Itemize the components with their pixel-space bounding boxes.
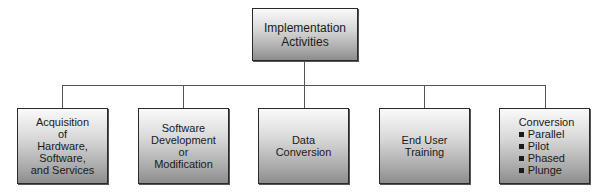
label-line: or [179, 146, 189, 158]
bullet-label: Phased [528, 152, 565, 164]
child-connector-1 [62, 85, 63, 108]
node-conversion: Conversion Parallel Pilot Phased Plunge [499, 108, 590, 184]
bullet-label: Parallel [528, 128, 565, 140]
label-line: Conversion [276, 146, 332, 158]
label-line: Software [162, 122, 205, 134]
root-node-implementation-activities: Implementation Activities [252, 8, 358, 61]
label-line: Modification [154, 158, 213, 170]
child-connector-5 [545, 85, 546, 108]
label-line: Training [405, 146, 444, 158]
node-end-user-training: End User Training [379, 108, 470, 184]
bullet-item-pilot: Pilot [519, 140, 575, 152]
node-software-development: Software Development or Modification [138, 108, 229, 184]
bullet-item-phased: Phased [519, 152, 575, 164]
label-line: Acquisition [36, 116, 89, 128]
bullet-label: Pilot [528, 140, 549, 152]
label-line: Software, [39, 152, 85, 164]
node-acquisition: Acquisition of Hardware, Software, and S… [17, 108, 108, 184]
node-data-conversion: Data Conversion [258, 108, 349, 184]
child-connector-4 [424, 85, 425, 108]
label-line: Development [151, 134, 216, 146]
square-bullet-icon [519, 156, 524, 161]
label-line: Hardware, [37, 140, 88, 152]
label-line: and Services [31, 164, 95, 176]
bullet-item-plunge: Plunge [519, 164, 575, 176]
child-connector-2 [183, 85, 184, 108]
label-line: End User [402, 134, 448, 146]
bullet-label: Plunge [528, 164, 562, 176]
label-line: of [58, 128, 67, 140]
root-connector [304, 60, 305, 85]
root-label-line-2: Activities [281, 35, 328, 49]
label-line: Data [292, 134, 315, 146]
square-bullet-icon [519, 132, 524, 137]
square-bullet-icon [519, 144, 524, 149]
root-label-line-1: Implementation [264, 21, 346, 35]
bullet-item-parallel: Parallel [519, 128, 575, 140]
square-bullet-icon [519, 168, 524, 173]
conversion-title: Conversion [519, 116, 575, 128]
child-connector-3 [304, 85, 305, 108]
